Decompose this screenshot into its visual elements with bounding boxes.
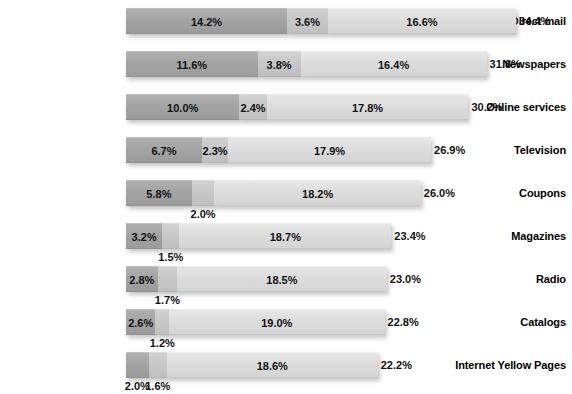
segment-value-label: 14.2% bbox=[126, 9, 287, 34]
bar-segment: 2.6% bbox=[126, 309, 155, 335]
bar-segment bbox=[149, 352, 167, 378]
segment-value-label: 18.5% bbox=[177, 267, 387, 292]
bar-segment: 16.6% bbox=[328, 8, 516, 34]
segment-value-label: 19.0% bbox=[169, 310, 384, 335]
segment-value-label: 18.7% bbox=[179, 224, 391, 249]
segment-callout-label: 1.2% bbox=[150, 336, 175, 350]
chart-row: Radio2.8%1.7%18.5%23.0% bbox=[0, 266, 572, 309]
segment-value-label: 16.6% bbox=[328, 9, 516, 34]
segment-value-label: 3.8% bbox=[258, 52, 301, 77]
segment-callout-label: 1.7% bbox=[155, 293, 180, 307]
segment-value-label: 17.9% bbox=[228, 138, 431, 163]
bar-segment: 2.3% bbox=[202, 137, 228, 163]
segment-value-label: 5.8% bbox=[126, 181, 192, 206]
segment-value-label: 11.6% bbox=[126, 52, 258, 77]
chart-row: Online services10.0%2.4%17.8%30.2% bbox=[0, 94, 572, 137]
bar-segment: 18.5% bbox=[177, 266, 387, 292]
bar-segment: 19.0% bbox=[169, 309, 384, 335]
total-value-label: 34.4% bbox=[516, 8, 550, 34]
bar-segment: 16.4% bbox=[301, 51, 487, 77]
segment-callout-label: 1.5% bbox=[158, 250, 183, 264]
category-label: Catalogs bbox=[446, 309, 572, 335]
chart-row: Coupons5.8%2.0%18.2%26.0% bbox=[0, 180, 572, 223]
bar-segment: 14.2% bbox=[126, 8, 287, 34]
segment-value-label: 2.3% bbox=[202, 138, 228, 163]
total-value-label: 22.2% bbox=[378, 352, 412, 378]
segment-callout-label: 2.0% bbox=[191, 207, 216, 221]
total-value-label: 26.9% bbox=[431, 137, 465, 163]
chart-row: Direct mail14.2%3.6%16.6%34.4% bbox=[0, 8, 572, 51]
bar-segment: 6.7% bbox=[126, 137, 202, 163]
category-label: Radio bbox=[446, 266, 572, 292]
segment-callout-label: 1.6% bbox=[145, 379, 170, 393]
bar-segment: 18.2% bbox=[214, 180, 420, 206]
bar-segment: 11.6% bbox=[126, 51, 258, 77]
bar-segment bbox=[155, 309, 169, 335]
bar-segment bbox=[192, 180, 215, 206]
total-value-label: 31.8% bbox=[487, 51, 521, 77]
bar-segment bbox=[162, 223, 179, 249]
segment-value-label: 2.8% bbox=[126, 267, 158, 292]
segment-value-label: 3.2% bbox=[126, 224, 162, 249]
chart-row: Television6.7%2.3%17.9%26.9% bbox=[0, 137, 572, 180]
category-label: Internet Yellow Pages bbox=[446, 352, 572, 378]
total-value-label: 22.8% bbox=[385, 309, 419, 335]
bar-segment: 10.0% bbox=[126, 94, 239, 120]
segment-value-label: 18.6% bbox=[167, 353, 378, 378]
bar-segment: 17.9% bbox=[228, 137, 431, 163]
total-value-label: 30.2% bbox=[468, 94, 502, 120]
bar-segment: 3.8% bbox=[258, 51, 301, 77]
bar-segment: 18.7% bbox=[179, 223, 391, 249]
bar-segment bbox=[126, 352, 149, 378]
segment-value-label: 3.6% bbox=[287, 9, 328, 34]
category-label: Coupons bbox=[446, 180, 572, 206]
bar-segment: 2.8% bbox=[126, 266, 158, 292]
bar-segment: 18.6% bbox=[167, 352, 378, 378]
chart-row: Internet Yellow Pages2.0%1.6%18.6%22.2% bbox=[0, 352, 572, 394]
segment-value-label: 6.7% bbox=[126, 138, 202, 163]
segment-value-label: 16.4% bbox=[301, 52, 487, 77]
segment-value-label: 2.6% bbox=[126, 310, 155, 335]
total-value-label: 23.4% bbox=[391, 223, 425, 249]
total-value-label: 26.0% bbox=[421, 180, 455, 206]
chart-row: Magazines3.2%1.5%18.7%23.4% bbox=[0, 223, 572, 266]
chart-row: Catalogs2.6%1.2%19.0%22.8% bbox=[0, 309, 572, 352]
bar-segment: 3.2% bbox=[126, 223, 162, 249]
bar-segment: 17.8% bbox=[267, 94, 469, 120]
bar-segment bbox=[158, 266, 177, 292]
bar-segment: 3.6% bbox=[287, 8, 328, 34]
bar-segment: 2.4% bbox=[239, 94, 266, 120]
segment-value-label: 18.2% bbox=[214, 181, 420, 206]
segment-value-label: 10.0% bbox=[126, 95, 239, 120]
total-value-label: 23.0% bbox=[387, 266, 421, 292]
bar-segment: 5.8% bbox=[126, 180, 192, 206]
category-label: Magazines bbox=[446, 223, 572, 249]
chart-row: Newspapers11.6%3.8%16.4%31.8% bbox=[0, 51, 572, 94]
segment-value-label: 2.4% bbox=[239, 95, 266, 120]
segment-value-label: 17.8% bbox=[267, 95, 469, 120]
